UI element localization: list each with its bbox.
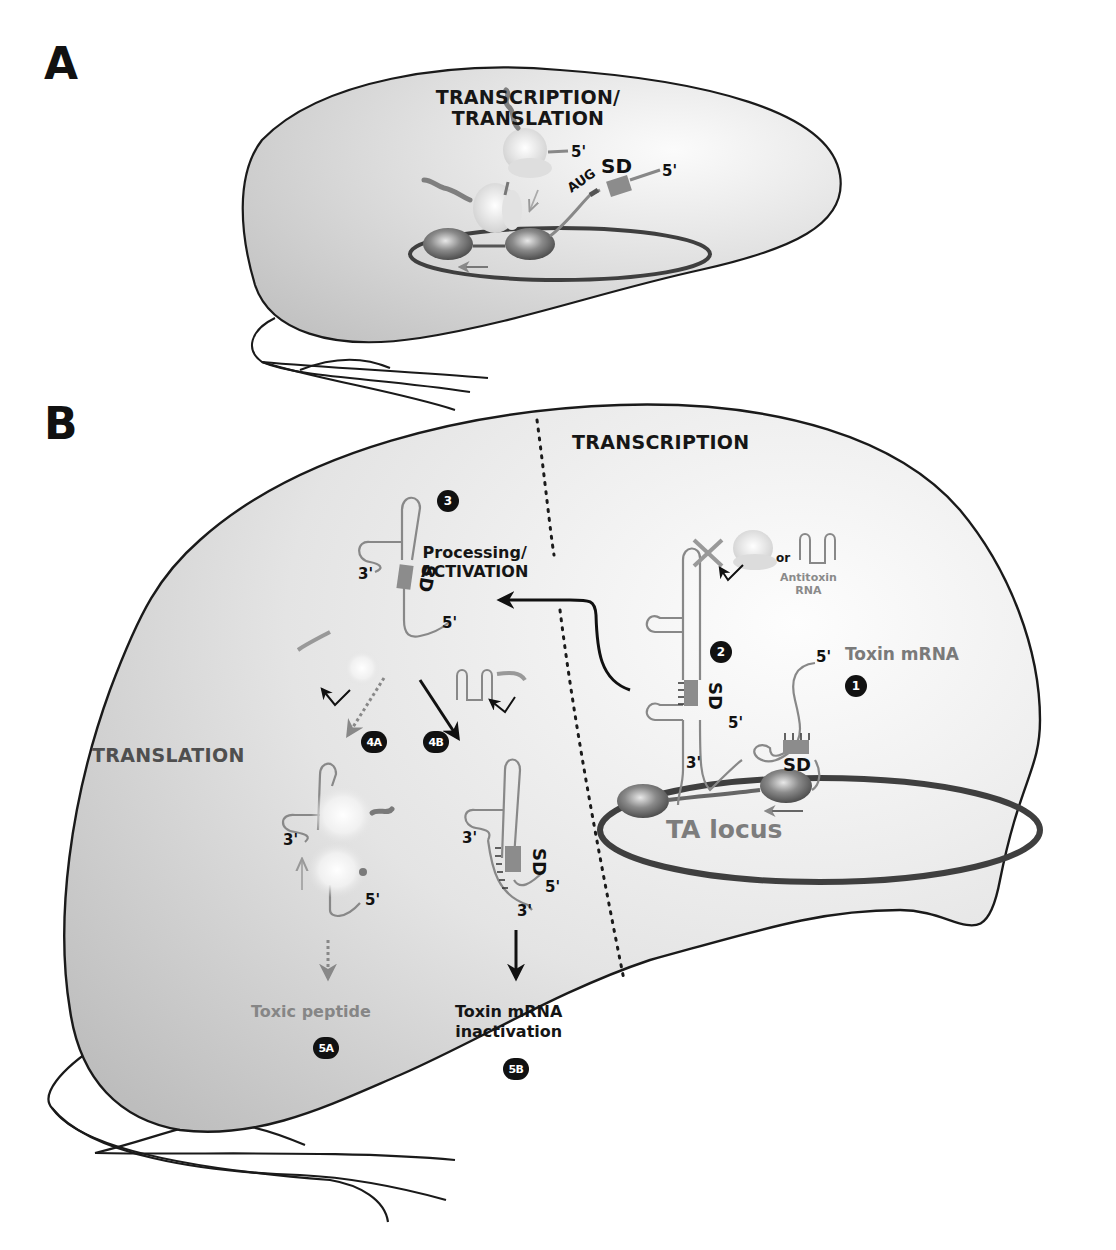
region-translation-label: TRANSLATION [92,746,245,765]
ta-locus-label: TA locus [666,817,782,842]
antitoxin-rna-label: Antitoxin RNA [780,572,837,596]
sd-box [684,680,698,706]
panel-a-mrna-5prime-label: 5' [662,164,677,179]
panel-a-sd-label: SD [601,156,632,176]
toxic-peptide-label: Toxic peptide [251,1004,371,1020]
step-badge-4b: 4B [423,731,449,753]
rna-polymerase-icon [423,228,473,260]
panel-b-letter: B [44,402,78,446]
step-badge-3: 3 [437,490,459,512]
step-badge-2: 2 [710,641,732,663]
step5a-3prime-label: 3' [283,833,298,848]
step-badge-4a: 4A [361,731,387,753]
sd-box [783,740,809,754]
rna-polymerase-icon [617,784,669,818]
panel-a-title-line2: TRANSLATION [418,109,638,128]
step1-sd-label: SD [783,756,811,774]
panel-a-letter: A [44,42,78,86]
step5b-3prime-top-label: 3' [462,831,477,846]
step5b-3prime-bottom-label: 3' [517,904,532,919]
ribosome-icon [307,842,367,898]
panel-a-title-line1: TRANSCRIPTION/ [418,88,638,107]
inactivation-label-line1: Toxin mRNA [455,1004,562,1020]
step5b-5prime-label: 5' [545,880,560,895]
ribosome-mrna-5prime-label: 5' [571,145,586,160]
step5a-5prime-label: 5' [365,893,380,908]
step5b-sd-label: SD [530,848,548,876]
panel-a-title: TRANSCRIPTION/ TRANSLATION [418,88,638,128]
ribosome-icon [344,650,380,686]
step-badge-5b: 5B [503,1058,529,1080]
step3-3prime-label: 3' [358,567,373,582]
or-label: or [776,552,790,564]
rna-polymerase-icon [505,228,555,260]
toxin-mrna-inactivation-label: Toxin mRNA inactivation [455,1004,562,1040]
ribosome-icon [311,785,375,845]
panel-b [49,405,1040,1222]
toxin-mrna-5prime-label: 5' [816,650,831,665]
step-badge-5a: 5A [313,1037,339,1059]
region-transcription-label: TRANSCRIPTION [572,433,749,452]
figure-canvas [0,0,1116,1250]
antitoxin-label-line2: RNA [780,585,837,596]
step3-5prime-label: 5' [442,616,457,631]
antitoxin-label-line1: Antitoxin [780,572,837,583]
toxin-mrna-label: Toxin mRNA [845,646,959,663]
step3-sd-label: SD [415,563,438,594]
step2-sd-label: SD [706,682,724,710]
step2-5prime-label: 5' [728,716,743,731]
sd-box [505,846,521,872]
inactivation-label-line2: inactivation [455,1024,562,1040]
step2-3prime-label: 3' [686,756,701,771]
step-badge-1: 1 [845,675,867,697]
processing-label-line1: Processing/ [421,545,528,561]
